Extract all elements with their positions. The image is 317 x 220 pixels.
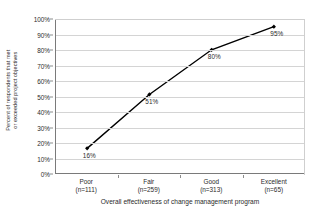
y-axis-tick-label: 10% [37, 155, 50, 162]
x-axis-tick-label: Excellent(n=65) [261, 178, 287, 195]
y-axis-tick-label: 90% [37, 31, 50, 38]
y-axis-tick-label: 70% [37, 62, 50, 69]
gridline [56, 50, 305, 51]
x-axis-tick-label: Good(n=313) [200, 178, 222, 195]
gridline [56, 35, 305, 36]
data-point-marker [272, 25, 276, 29]
y-axis-tick-mark [50, 50, 53, 51]
x-axis-tick-label: Fair(n=259) [138, 178, 160, 195]
series-polyline [87, 27, 274, 149]
data-point-label: 51% [145, 98, 158, 105]
plot-area [55, 19, 305, 174]
y-axis-tick-mark [50, 81, 53, 82]
gridline [56, 143, 305, 144]
x-axis-category-name: Excellent [261, 178, 287, 186]
data-point-label: 80% [208, 53, 221, 60]
y-axis-tick-label: 30% [37, 124, 50, 131]
x-axis-category-count: (n=259) [138, 186, 160, 194]
y-axis-tick-mark [50, 112, 53, 113]
y-axis-tick-label: 40% [37, 109, 50, 116]
y-axis-tick-label: 20% [37, 140, 50, 147]
y-axis-tick-mark [50, 19, 53, 20]
x-axis-tick-mark [118, 175, 119, 178]
y-axis-tick-label: 100% [34, 16, 50, 23]
y-axis-tick-mark [50, 65, 53, 66]
x-axis-category-name: Poor [76, 178, 97, 186]
y-axis-tick-label: 0% [41, 171, 50, 178]
y-axis-tick-label: 80% [37, 47, 50, 54]
plot-frame-right [304, 19, 305, 175]
x-axis-category-count: (n=65) [261, 186, 287, 194]
gridline [56, 66, 305, 67]
x-axis-title: Overall effectiveness of change manageme… [55, 198, 305, 205]
y-axis-tick-mark [50, 127, 53, 128]
y-axis-tick-mark [50, 34, 53, 35]
gridline [56, 128, 305, 129]
y-axis-tick-mark [50, 174, 53, 175]
y-axis-tick-label: 60% [37, 78, 50, 85]
y-axis-tick-mark [50, 158, 53, 159]
x-axis-tick-label: Poor(n=111) [76, 178, 97, 195]
line-chart: Percent of respondents that met or excee… [0, 0, 317, 220]
gridline [56, 81, 305, 82]
x-axis-tick-mark [243, 175, 244, 178]
data-point-label: 16% [83, 152, 96, 159]
y-axis-tick-mark [50, 143, 53, 144]
x-axis-tick-mark [180, 175, 181, 178]
y-axis-title: Percent of respondents that met or excee… [0, 0, 26, 180]
data-point-label: 95% [270, 30, 283, 37]
x-axis-category-count: (n=111) [76, 186, 97, 194]
plot-frame-top [55, 19, 305, 20]
gridline [56, 112, 305, 113]
x-axis-ticks: Poor(n=111)Fair(n=259)Good(n=313)Excelle… [55, 175, 305, 197]
y-axis-tick-label: 50% [37, 93, 50, 100]
gridline [56, 97, 305, 98]
y-axis-title-line-2: or exceeded project objectives [13, 49, 20, 130]
y-axis-ticks: 0%10%20%30%40%50%60%70%80%90%100% [26, 19, 53, 174]
x-axis-category-count: (n=313) [200, 186, 222, 194]
y-axis-tick-mark [50, 96, 53, 97]
x-axis-category-name: Fair [138, 178, 160, 186]
x-axis-category-name: Good [200, 178, 222, 186]
